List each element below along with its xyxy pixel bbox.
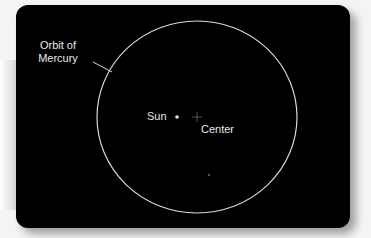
orbit-leader-line <box>93 62 112 72</box>
sun-dot <box>175 115 179 119</box>
orbit-diagram <box>0 0 371 238</box>
orbit-label-line2: Mercury <box>30 52 86 65</box>
orbit-label: Orbit of Mercury <box>30 39 86 65</box>
faint-point <box>208 174 210 176</box>
center-label: Center <box>201 123 234 136</box>
sun-label: Sun <box>147 110 167 123</box>
center-cross-icon <box>192 112 202 122</box>
orbit-label-line1: Orbit of <box>30 39 86 52</box>
